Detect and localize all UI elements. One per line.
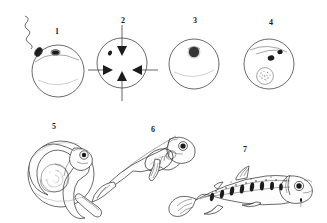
arrow-bottom-head — [117, 71, 127, 81]
stage-4-group — [244, 39, 294, 89]
alevin-head — [167, 137, 195, 163]
parr-caudal-fin — [169, 196, 196, 216]
stage-1-egg-highlight — [35, 54, 79, 62]
stage-7-group — [169, 166, 313, 217]
stage-label-3: 3 — [193, 17, 197, 25]
stage-2-germ-dot — [107, 50, 113, 56]
stage-4-stipple — [259, 71, 270, 81]
blastodisc-halo — [187, 45, 200, 58]
stage-label-6: 6 — [151, 126, 155, 134]
alevin-caudal-fin — [92, 182, 116, 202]
figure-illustration — [0, 0, 327, 223]
arrow-top-head — [117, 46, 127, 56]
stage-5-group — [28, 141, 102, 219]
stage-2-group — [88, 25, 158, 101]
stage-label-5: 5 — [52, 123, 56, 131]
embryo-head — [70, 148, 93, 171]
stage-6-group — [92, 136, 195, 202]
yolk-sac — [40, 164, 69, 192]
arrow-right-head — [132, 65, 142, 75]
stage-label-2: 2 — [121, 17, 125, 25]
sperm-tail-icon — [25, 16, 32, 49]
micropyle-icon — [52, 51, 59, 55]
alevin-pupil — [180, 143, 185, 148]
embryo-pupil — [82, 153, 86, 157]
stage-label-1: 1 — [55, 28, 59, 36]
stage-1-egg-shade — [38, 79, 78, 85]
stage-label-4: 4 — [269, 19, 273, 27]
fish-development-figure: 1 2 3 4 5 6 7 — [0, 0, 327, 223]
parr-anal-fin — [204, 205, 223, 214]
parr-pupil — [296, 183, 301, 188]
embryo-eye-left — [267, 54, 275, 61]
stage-3-egg-shade — [174, 70, 214, 77]
arrow-left-head — [103, 65, 113, 75]
stage-label-7: 7 — [243, 146, 247, 154]
stage-3-group — [169, 39, 219, 89]
